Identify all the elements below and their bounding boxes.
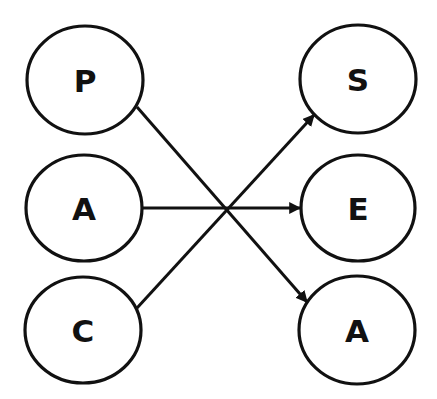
right-nodes: S E A — [299, 25, 416, 384]
node-label: P — [74, 63, 97, 99]
node-label: C — [72, 313, 95, 349]
edges — [137, 107, 314, 308]
node-label: A — [345, 313, 369, 349]
node-left-c: C — [25, 277, 141, 383]
node-label: E — [347, 191, 368, 227]
node-label: S — [347, 62, 369, 98]
node-right-e: E — [301, 155, 415, 261]
mapping-diagram: P A C S E A — [0, 0, 437, 399]
left-nodes: P A C — [25, 26, 143, 383]
node-right-a: A — [299, 276, 415, 384]
node-left-a: A — [26, 155, 142, 261]
node-right-s: S — [300, 25, 416, 133]
node-label: A — [72, 191, 96, 227]
node-left-p: P — [27, 26, 143, 134]
edge-p-to-a — [137, 107, 307, 302]
